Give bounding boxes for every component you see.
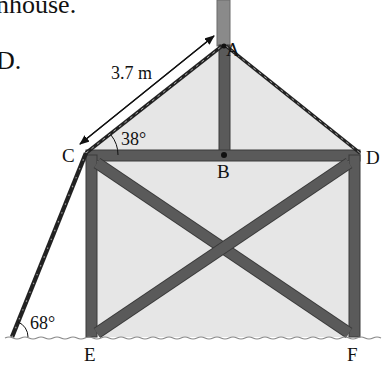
label-B: B	[217, 162, 230, 181]
point-B-dot	[221, 152, 227, 158]
label-F: F	[347, 345, 358, 364]
house-frame-diagram	[0, 0, 387, 367]
label-D: D	[366, 148, 380, 167]
king-post-AB	[219, 45, 230, 157]
label-A: A	[226, 40, 240, 59]
label-E: E	[84, 345, 96, 364]
label-angle-38: 38°	[121, 130, 146, 148]
label-C: C	[62, 146, 75, 165]
ground-line	[5, 337, 381, 339]
post-CE	[86, 155, 97, 337]
label-ladder-length: 3.7 m	[111, 64, 152, 82]
label-angle-68: 68°	[30, 314, 55, 332]
post-DF	[349, 155, 360, 337]
